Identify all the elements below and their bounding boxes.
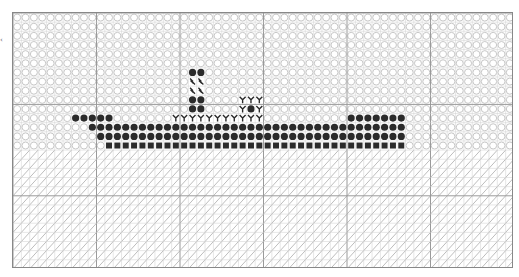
open-circle-stitch-icon bbox=[256, 41, 263, 48]
open-circle-stitch-icon bbox=[80, 41, 87, 48]
diagonal-hatch-stitch-icon bbox=[414, 196, 422, 205]
open-circle-stitch-icon bbox=[22, 142, 29, 149]
open-circle-stitch-icon bbox=[106, 51, 113, 58]
diagonal-hatch-stitch-icon bbox=[305, 159, 313, 168]
diagonal-hatch-stitch-icon bbox=[155, 168, 163, 177]
open-circle-stitch-icon bbox=[89, 14, 96, 21]
open-circle-stitch-icon bbox=[264, 14, 271, 21]
open-circle-stitch-icon bbox=[348, 69, 355, 76]
open-circle-stitch-icon bbox=[373, 14, 380, 21]
diagonal-hatch-stitch-icon bbox=[481, 150, 489, 159]
open-circle-stitch-icon bbox=[47, 14, 54, 21]
diagonal-hatch-stitch-icon bbox=[180, 159, 188, 168]
filled-circle-stitch-icon bbox=[147, 133, 154, 140]
diagonal-hatch-stitch-icon bbox=[297, 178, 305, 187]
open-circle-stitch-icon bbox=[80, 96, 87, 103]
diagonal-hatch-stitch-icon bbox=[21, 168, 29, 177]
diagonal-hatch-stitch-icon bbox=[481, 260, 489, 267]
open-circle-stitch-icon bbox=[473, 124, 480, 131]
open-circle-stitch-icon bbox=[473, 14, 480, 21]
open-circle-stitch-icon bbox=[406, 96, 413, 103]
diagonal-hatch-stitch-icon bbox=[431, 214, 439, 223]
diagonal-hatch-stitch-icon bbox=[456, 223, 464, 232]
diagonal-hatch-stitch-icon bbox=[280, 251, 288, 260]
diagonal-hatch-stitch-icon bbox=[138, 214, 146, 223]
open-circle-stitch-icon bbox=[423, 96, 430, 103]
open-circle-stitch-icon bbox=[72, 142, 79, 149]
filled-circle-stitch-icon bbox=[189, 105, 196, 112]
diagonal-hatch-stitch-icon bbox=[414, 260, 422, 267]
diagonal-hatch-stitch-icon bbox=[155, 159, 163, 168]
open-circle-stitch-icon bbox=[206, 105, 213, 112]
open-circle-stitch-icon bbox=[414, 60, 421, 67]
diagonal-hatch-stitch-icon bbox=[55, 178, 63, 187]
diagonal-hatch-stitch-icon bbox=[314, 159, 322, 168]
open-circle-stitch-icon bbox=[114, 105, 121, 112]
open-circle-stitch-icon bbox=[22, 14, 29, 21]
open-circle-stitch-icon bbox=[222, 32, 229, 39]
open-circle-stitch-icon bbox=[281, 115, 288, 122]
pattern-canvas bbox=[13, 13, 512, 267]
open-circle-stitch-icon bbox=[406, 32, 413, 39]
open-circle-stitch-icon bbox=[30, 115, 37, 122]
open-circle-stitch-icon bbox=[239, 14, 246, 21]
open-circle-stitch-icon bbox=[498, 14, 505, 21]
open-circle-stitch-icon bbox=[490, 142, 497, 149]
filled-circle-stitch-icon bbox=[164, 124, 171, 131]
open-circle-stitch-icon bbox=[156, 23, 163, 30]
open-circle-stitch-icon bbox=[97, 96, 104, 103]
open-circle-stitch-icon bbox=[239, 60, 246, 67]
diagonal-hatch-stitch-icon bbox=[230, 159, 238, 168]
open-circle-stitch-icon bbox=[398, 32, 405, 39]
diagonal-hatch-stitch-icon bbox=[155, 205, 163, 214]
open-circle-stitch-icon bbox=[364, 32, 371, 39]
open-circle-stitch-icon bbox=[306, 51, 313, 58]
open-circle-stitch-icon bbox=[89, 51, 96, 58]
diagonal-hatch-stitch-icon bbox=[389, 150, 397, 159]
diagonal-hatch-stitch-icon bbox=[46, 150, 54, 159]
diagonal-hatch-stitch-icon bbox=[314, 242, 322, 251]
diagonal-hatch-stitch-icon bbox=[264, 214, 272, 223]
open-circle-stitch-icon bbox=[389, 14, 396, 21]
diagonal-hatch-stitch-icon bbox=[339, 232, 347, 241]
filled-circle-stitch-icon bbox=[130, 133, 137, 140]
diagonal-hatch-stitch-icon bbox=[88, 232, 96, 241]
diagonal-hatch-stitch-icon bbox=[280, 196, 288, 205]
open-circle-stitch-icon bbox=[423, 41, 430, 48]
filled-circle-stitch-icon bbox=[122, 133, 129, 140]
open-circle-stitch-icon bbox=[364, 96, 371, 103]
diagonal-hatch-stitch-icon bbox=[122, 232, 130, 241]
diagonal-hatch-stitch-icon bbox=[30, 178, 38, 187]
open-circle-stitch-icon bbox=[323, 96, 330, 103]
open-circle-stitch-icon bbox=[80, 78, 87, 85]
open-circle-stitch-icon bbox=[423, 142, 430, 149]
diagonal-hatch-stitch-icon bbox=[122, 260, 130, 267]
filled-circle-stitch-icon bbox=[172, 124, 179, 131]
open-circle-stitch-icon bbox=[97, 23, 104, 30]
diagonal-hatch-stitch-icon bbox=[347, 205, 355, 214]
open-circle-stitch-icon bbox=[97, 142, 104, 149]
open-circle-stitch-icon bbox=[448, 105, 455, 112]
open-circle-stitch-icon bbox=[156, 14, 163, 21]
diagonal-hatch-stitch-icon bbox=[88, 214, 96, 223]
diagonal-hatch-stitch-icon bbox=[97, 232, 105, 241]
open-circle-stitch-icon bbox=[247, 60, 254, 67]
diagonal-hatch-stitch-icon bbox=[222, 168, 230, 177]
open-circle-stitch-icon bbox=[414, 105, 421, 112]
diagonal-hatch-stitch-icon bbox=[431, 178, 439, 187]
diagonal-hatch-stitch-icon bbox=[30, 251, 38, 260]
filled-circle-stitch-icon bbox=[364, 133, 371, 140]
open-circle-stitch-icon bbox=[80, 60, 87, 67]
open-circle-stitch-icon bbox=[164, 115, 171, 122]
filled-circle-stitch-icon bbox=[381, 133, 388, 140]
open-circle-stitch-icon bbox=[506, 69, 512, 76]
diagonal-hatch-stitch-icon bbox=[197, 205, 205, 214]
open-circle-stitch-icon bbox=[456, 96, 463, 103]
open-circle-stitch-icon bbox=[465, 32, 472, 39]
diagonal-hatch-stitch-icon bbox=[372, 232, 380, 241]
diagonal-hatch-stitch-icon bbox=[147, 232, 155, 241]
open-circle-stitch-icon bbox=[398, 105, 405, 112]
diagonal-hatch-stitch-icon bbox=[172, 187, 180, 196]
filled-circle-stitch-icon bbox=[239, 133, 246, 140]
open-circle-stitch-icon bbox=[97, 32, 104, 39]
